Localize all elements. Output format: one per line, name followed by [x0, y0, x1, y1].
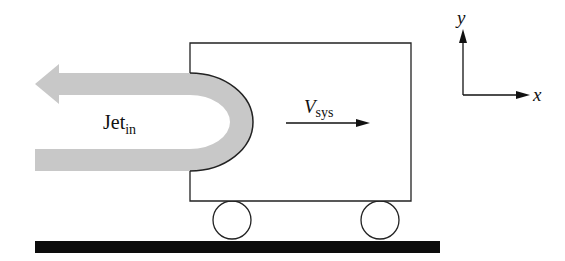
left-wheel: [213, 201, 251, 239]
x-axis-arrowhead-icon: [516, 91, 530, 99]
right-wheel: [361, 201, 399, 239]
y-axis-arrowhead-icon: [459, 29, 467, 43]
jet-label: Jetin: [103, 111, 136, 137]
y-axis-label: y: [455, 7, 466, 28]
ground: [35, 241, 440, 253]
jet-cart-diagram: Jetin Vsys y x: [0, 0, 565, 261]
jet-arrowhead: [35, 64, 59, 104]
x-axis-label: x: [532, 84, 542, 105]
cart-box: [190, 43, 411, 201]
